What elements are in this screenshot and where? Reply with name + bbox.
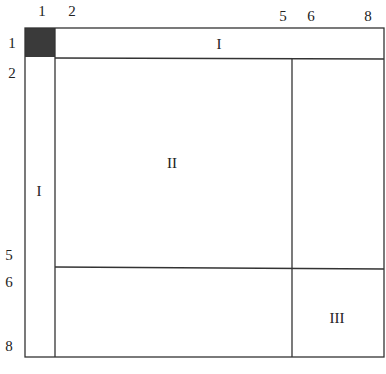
row-label: 2 bbox=[8, 65, 16, 81]
row-label: 1 bbox=[8, 35, 16, 51]
row-label: 8 bbox=[5, 338, 13, 354]
col-label: 5 bbox=[279, 8, 287, 24]
divider-row-1 bbox=[55, 58, 384, 59]
partition-diagram: 1 2 5 6 8 1 2 5 6 8 I I II III bbox=[0, 0, 386, 374]
region-label-bottom-right: III bbox=[330, 310, 345, 326]
column-labels: 1 2 5 6 8 bbox=[38, 3, 372, 24]
divider-row-5 bbox=[55, 267, 384, 269]
shaded-cell bbox=[25, 28, 55, 57]
col-label: 6 bbox=[307, 8, 315, 24]
col-label: 8 bbox=[364, 8, 372, 24]
col-label: 2 bbox=[68, 3, 76, 19]
row-label: 6 bbox=[5, 274, 13, 290]
region-label-center: II bbox=[167, 155, 177, 171]
region-labels: I I II III bbox=[37, 36, 345, 326]
region-label-left-column: I bbox=[37, 183, 42, 199]
region-label-top-row: I bbox=[217, 36, 222, 52]
col-label: 1 bbox=[38, 3, 46, 19]
outer-border bbox=[25, 28, 384, 357]
row-label: 5 bbox=[5, 247, 13, 263]
row-labels: 1 2 5 6 8 bbox=[5, 35, 16, 354]
